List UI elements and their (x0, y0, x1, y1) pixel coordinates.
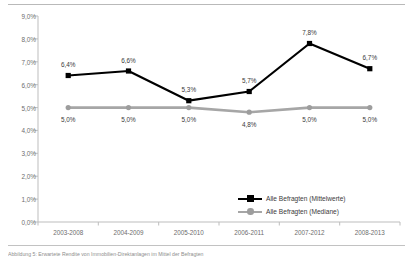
figure-page: 0,0% 1,0% 2,0% 3,0% 4,0% 5,0% 6,0% 7,0% … (0, 0, 413, 261)
bottom-divider (8, 245, 405, 246)
figure-caption: Abbildung 5: Erwartete Rendite von Immob… (8, 249, 408, 259)
data-label: 5,7% (242, 77, 257, 84)
x-tick-label: 2007-2012 (294, 229, 324, 236)
line-chart: 0,0% 1,0% 2,0% 3,0% 4,0% 5,0% 6,0% 7,0% … (0, 10, 413, 245)
data-label: 6,7% (363, 54, 378, 61)
data-label: 5,0% (61, 116, 76, 123)
legend-item-mittelwerte[interactable]: Alle Befragten (Mittelwerte) (238, 192, 400, 205)
x-tick-label: 2003-2008 (53, 229, 83, 236)
data-label: 7,8% (302, 29, 317, 36)
data-label: 5,0% (121, 116, 136, 123)
legend-label: Alle Befragten (Mediane) (262, 208, 339, 215)
data-label: 5,3% (182, 86, 197, 93)
data-label: 5,0% (182, 116, 197, 123)
x-tick-label: 2006-2011 (234, 229, 264, 236)
data-label: 4,8% (242, 121, 257, 128)
data-label: 6,4% (61, 61, 76, 68)
data-label: 5,0% (302, 116, 317, 123)
x-tick-label: 2004-2009 (113, 229, 143, 236)
legend-label: Alle Befragten (Mittelwerte) (262, 195, 346, 202)
legend-item-mediane[interactable]: Alle Befragten (Mediane) (238, 205, 400, 218)
data-label: 6,6% (121, 57, 136, 64)
legend-marker-circle-icon (238, 206, 262, 217)
x-tick-label: 2008-2013 (355, 229, 385, 236)
top-divider (8, 4, 405, 5)
legend-marker-square-icon (238, 193, 262, 204)
chart-legend: Alle Befragten (Mittelwerte) Alle Befrag… (238, 192, 400, 218)
x-tick-label: 2005-2010 (174, 229, 204, 236)
data-label: 5,0% (363, 116, 378, 123)
